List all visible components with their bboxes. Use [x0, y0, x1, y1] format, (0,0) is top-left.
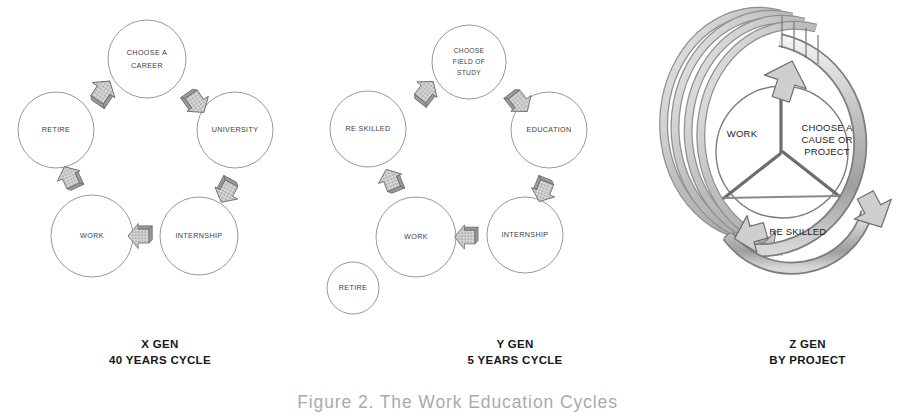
node-label-line: RE SKILLED: [345, 124, 390, 133]
segment-label-line: CAUSE OR: [801, 134, 852, 145]
node-label-line: FIELD OF: [453, 58, 485, 65]
node-label-line: RETIRE: [339, 283, 367, 292]
node-label-line: INTERNSHIP: [501, 230, 548, 239]
node-work: WORK: [376, 197, 456, 277]
segment-label-work: WORK: [727, 128, 758, 139]
node-retire: RETIRE: [18, 92, 94, 168]
figure-caption-text: Figure 2. The Work Education Cycles: [0, 392, 915, 413]
node-label-line: STUDY: [457, 69, 481, 76]
node-choose-a-career: CHOOSE A CAREER: [108, 20, 186, 98]
arrow-work-to-re-skilled: [375, 165, 407, 197]
node-re-skilled: RE SKILLED: [330, 91, 406, 167]
panel-y-gen: CHOOSE FIELD OF STUDY EDUCATION INTERNSH…: [300, 0, 620, 330]
node-internship: INTERNSHIP: [487, 197, 563, 273]
node-label-line: CAREER: [131, 61, 163, 70]
z-gen-diagram: WORK CHOOSE A CAUSE OR PROJECT UP & RE S…: [620, 0, 915, 330]
node-label-line: CHOOSE A: [127, 48, 167, 57]
caption-line-subtitle: 5 YEARS CYCLE: [400, 352, 630, 368]
caption-z-gen: Z GEN BY PROJECT: [700, 336, 915, 368]
y-gen-diagram: CHOOSE FIELD OF STUDY EDUCATION INTERNSH…: [300, 0, 620, 330]
panel-x-gen: CHOOSE A CAREER UNIVERSITY INTERNSHIP WO…: [0, 0, 305, 330]
caption-line-subtitle: BY PROJECT: [700, 352, 915, 368]
node-university: UNIVERSITY: [197, 92, 273, 168]
caption-line-subtitle: 40 YEARS CYCLE: [40, 352, 280, 368]
node-choose-field-of-study: CHOOSE FIELD OF STUDY: [432, 25, 506, 99]
segment-label-line: PROJECT: [804, 146, 850, 157]
caption-line-title: Y GEN: [400, 336, 630, 352]
x-gen-diagram: CHOOSE A CAREER UNIVERSITY INTERNSHIP WO…: [0, 0, 305, 330]
node-label-line: WORK: [80, 231, 104, 240]
segment-label-choose-a-cause-or-project: CHOOSE A CAUSE OR PROJECT: [801, 122, 853, 157]
node-retire: RETIRE: [327, 262, 379, 314]
node-label-line: CHOOSE: [454, 47, 485, 54]
panel-captions-row: X GEN 40 YEARS CYCLE Y GEN 5 YEARS CYCLE…: [0, 336, 915, 382]
caption-y-gen: Y GEN 5 YEARS CYCLE: [400, 336, 630, 368]
node-work: WORK: [51, 195, 133, 277]
arrow-internship-to-work: [455, 225, 479, 249]
caption-line-title: Z GEN: [700, 336, 915, 352]
work-education-cycles-figure: CHOOSE A CAREER UNIVERSITY INTERNSHIP WO…: [0, 0, 915, 414]
node-label-line: UNIVERSITY: [212, 125, 259, 134]
figure-caption-clipped: Figure 2. The Work Education Cycles: [0, 392, 915, 414]
caption-x-gen: X GEN 40 YEARS CYCLE: [40, 336, 280, 368]
panel-z-gen: WORK CHOOSE A CAUSE OR PROJECT UP & RE S…: [620, 0, 915, 330]
segment-label-line: CHOOSE A: [801, 122, 853, 133]
node-label-line: INTERNSHIP: [175, 231, 222, 240]
node-label-line: EDUCATION: [527, 125, 572, 134]
node-internship: INTERNSHIP: [160, 197, 238, 275]
caption-line-title: X GEN: [40, 336, 280, 352]
node-label-line: WORK: [404, 232, 428, 241]
node-label-line: RETIRE: [42, 125, 70, 134]
